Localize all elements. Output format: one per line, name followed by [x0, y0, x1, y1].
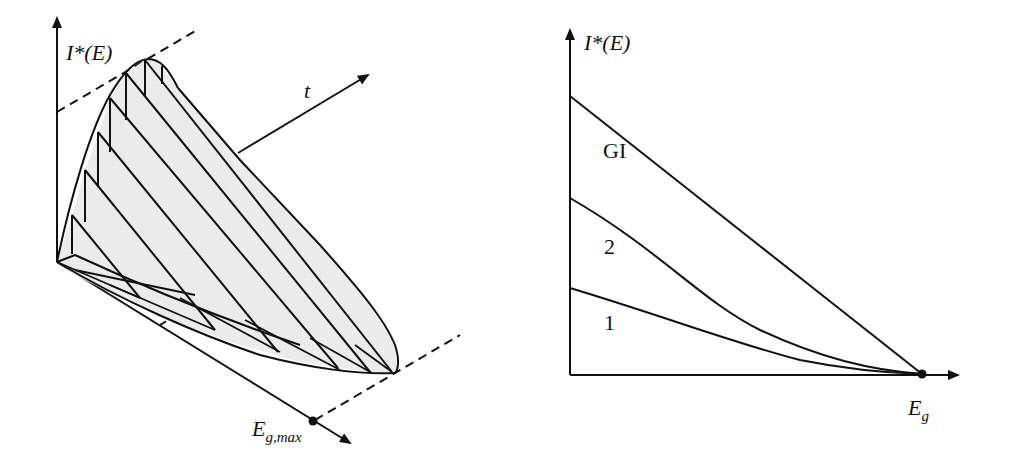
left-y-axis-label: I*(E) [65, 40, 112, 65]
diagram-svg: I*(E) t Eg,max I*(E) GI 2 1 Eg [0, 0, 1011, 473]
left-egmax-point [309, 417, 318, 426]
right-2d-plot [570, 30, 958, 379]
left-t-axis [238, 75, 368, 153]
left-t-axis-label: t [304, 78, 311, 103]
curve-1-label: 1 [604, 310, 615, 335]
right-y-axis-label: I*(E) [583, 30, 630, 55]
curve-gi-label: GI [603, 138, 626, 163]
left-3d-surface-plot [57, 18, 460, 443]
diagram-canvas: I*(E) t Eg,max I*(E) GI 2 1 Eg [0, 0, 1011, 473]
right-eg-point [918, 370, 927, 379]
left-surface-fill [57, 60, 397, 372]
curve-1 [570, 288, 922, 374]
left-e-axis-label: Eg,max [251, 416, 302, 445]
curve-2-label: 2 [604, 234, 615, 259]
curve-2 [570, 198, 922, 374]
right-x-axis-label: Eg [907, 395, 929, 424]
